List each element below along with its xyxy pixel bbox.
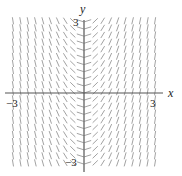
slope-segment (70, 146, 75, 151)
slope-segment (42, 88, 44, 95)
slope-segment (147, 131, 148, 138)
slope-segment (84, 148, 91, 150)
slope-segment (49, 138, 51, 145)
slope-segment (132, 74, 134, 81)
slope-segment (42, 67, 44, 74)
slope-segment (12, 53, 13, 60)
slope-segment (56, 46, 59, 53)
slope-segment (49, 110, 51, 117)
slope-segment (93, 139, 98, 144)
slope-segment (77, 48, 84, 50)
slope-segment (116, 81, 118, 88)
slope-segment (84, 112, 91, 114)
slope-segment (124, 138, 126, 145)
slope-segment (116, 138, 118, 145)
slope-segment (154, 124, 155, 131)
slope-segment (35, 138, 37, 145)
slope-segment (27, 60, 28, 67)
slope-segment (12, 124, 13, 131)
slope-segment (132, 31, 134, 38)
slope-segment (27, 159, 28, 166)
slope-segment (56, 153, 59, 160)
slope-segment (84, 55, 91, 57)
slope-segment (132, 159, 134, 166)
slope-segment (93, 54, 98, 59)
slope-segment (35, 24, 37, 31)
slope-segment (70, 132, 75, 137)
slope-segment (147, 81, 148, 88)
slope-segment (139, 88, 140, 95)
slope-segment (49, 46, 51, 53)
slope-segment (109, 96, 112, 103)
slope-segment (139, 74, 140, 81)
slope-segment (101, 75, 105, 81)
slope-segment (20, 81, 21, 88)
slope-segment (27, 131, 28, 138)
slope-segment (49, 60, 51, 67)
slope-field-diagram: x y −3 3 3 −3 (0, 0, 182, 176)
slope-segment (124, 46, 126, 53)
slope-segment (49, 17, 51, 24)
slope-segment (109, 138, 112, 145)
slope-segment (147, 159, 148, 166)
slope-segment (139, 103, 140, 110)
slope-segment (139, 81, 140, 88)
slope-segment (93, 32, 98, 37)
slope-segment (35, 67, 37, 74)
slope-segment (139, 67, 140, 74)
slope-segment (132, 39, 134, 46)
slope-segment (35, 145, 37, 152)
slope-segment (35, 53, 37, 60)
slope-segment (56, 131, 59, 138)
x-axis-label: x (167, 86, 174, 100)
slope-segment (101, 32, 105, 38)
slope-segment (124, 39, 126, 46)
slope-segment (147, 53, 148, 60)
slope-segment (154, 46, 155, 53)
slope-segment (139, 46, 140, 53)
slope-segment (84, 133, 91, 135)
slope-segment (70, 125, 75, 130)
slope-segment (20, 152, 21, 159)
slope-segment (56, 32, 59, 39)
slope-segment (93, 75, 98, 80)
slope-segment (116, 74, 118, 81)
slope-segment (56, 110, 59, 117)
slope-segment (12, 88, 13, 95)
slope-segment (93, 25, 98, 30)
slope-segment (27, 39, 28, 46)
slope-segment (109, 131, 112, 138)
slope-segment (109, 103, 112, 110)
slope-segment (93, 160, 98, 165)
slope-segment (49, 39, 51, 46)
slope-segment (42, 145, 44, 152)
slope-segment (147, 124, 148, 131)
slope-segment (56, 103, 59, 110)
slope-segment (154, 74, 155, 81)
slope-segment (70, 111, 75, 116)
slope-segment (20, 67, 21, 74)
slope-segment (101, 96, 105, 102)
slope-segment (147, 117, 148, 124)
slope-segment (93, 96, 98, 101)
slope-segment (63, 25, 67, 31)
slope-segment (56, 96, 59, 103)
slope-segment (139, 110, 140, 117)
slope-segment (42, 74, 44, 81)
slope-segment (77, 77, 84, 79)
slope-segment (116, 67, 118, 74)
slope-segment (77, 34, 84, 36)
slope-segment (124, 159, 126, 166)
slope-segment (35, 110, 37, 117)
slope-segment (139, 17, 140, 24)
slope-segment (132, 95, 134, 102)
slope-segment (84, 34, 91, 36)
slope-segment (116, 131, 118, 138)
slope-segment (101, 139, 105, 145)
slope-segment (109, 160, 112, 167)
slope-segment (101, 67, 105, 73)
slope-segment (77, 41, 84, 43)
slope-segment (93, 68, 98, 73)
slope-segment (42, 117, 44, 124)
slope-segment (27, 67, 28, 74)
